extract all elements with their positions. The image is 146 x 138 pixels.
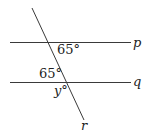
transversal-r: [32, 8, 84, 120]
angle-lower-65: 65°: [39, 66, 62, 81]
angle-y: y°: [53, 83, 68, 98]
label-p: p: [133, 35, 142, 50]
label-q: q: [133, 74, 141, 89]
parallel-lines-diagram: p q r 65° 65° y°: [0, 0, 146, 138]
angle-upper-65: 65°: [57, 42, 80, 57]
label-r: r: [81, 118, 88, 133]
